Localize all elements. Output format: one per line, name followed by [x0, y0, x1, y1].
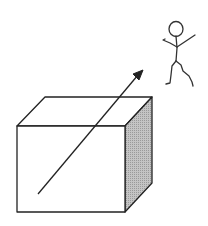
stick-figure-left-leg: [166, 61, 176, 84]
stick-figure-head: [169, 22, 183, 37]
stick-figure: [163, 22, 195, 87]
stick-figure-right-leg: [176, 61, 193, 86]
box-front-face: [17, 126, 125, 212]
stick-figure-body: [176, 36, 177, 61]
diagram-canvas: [0, 0, 208, 226]
box: [17, 97, 152, 212]
stick-figure-right-arm: [177, 35, 195, 47]
stick-figure-left-arm: [163, 39, 177, 47]
